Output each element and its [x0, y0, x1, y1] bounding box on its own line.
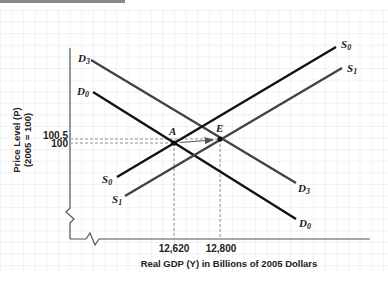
x-axis-title: Real GDP (Y) in Billions of 2005 Dollars	[141, 258, 318, 269]
point-a	[171, 140, 176, 145]
point-a-label: A	[168, 125, 176, 137]
svg-text:Price Level (P): Price Level (P)	[11, 107, 22, 172]
ytick-100: 100	[51, 138, 68, 149]
y-axis-title: Price Level (P) (2005 = 100)	[11, 107, 33, 172]
svg-text:(2005 = 100): (2005 = 100)	[22, 113, 33, 167]
xtick-12620: 12,620	[159, 243, 190, 254]
ad-as-chart: A E D3 D0 D3 D0 S0 S1 S0 S1 100.5 100 12…	[0, 0, 388, 281]
point-e-label: E	[215, 122, 223, 134]
xtick-12800: 12,800	[206, 243, 237, 254]
point-e	[217, 136, 222, 141]
